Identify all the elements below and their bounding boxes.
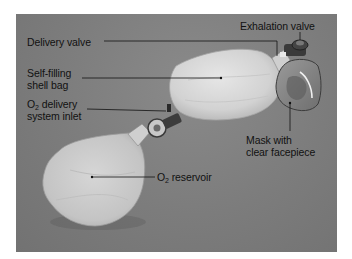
self-filling-shell-bag [170,49,281,120]
label-self-filling-shell-bag: Self-filling shell bag [27,67,71,91]
label-o2-delivery-system-inlet: O2 delivery system inlet [27,98,81,122]
label-delivery-valve: Delivery valve [27,36,91,48]
exhalation-valve-top [296,41,304,46]
label-exhalation-valve: Exhalation valve [240,20,315,32]
o2-inlet-nipple [167,104,171,112]
label-mask-with-clear-facepiece: Mask with clear facepiece [246,134,315,158]
inlet-connector [162,113,183,130]
label-o2-reservoir: O2 reservoir [157,171,212,183]
o2-reservoir-bag [43,133,145,226]
valve-clip [280,52,286,57]
intake-valve-center [154,125,161,132]
leader-o2-inlet [87,109,166,111]
